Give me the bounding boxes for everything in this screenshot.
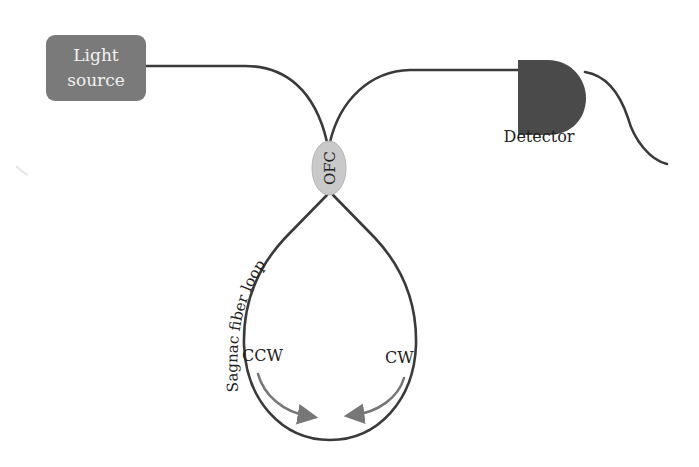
detector: Detector [504, 60, 586, 146]
sagnac-fiber-loop [244, 195, 416, 440]
cw-label: CW [385, 348, 414, 367]
output-fiber [330, 70, 520, 142]
light-source-label-line1: Light [73, 45, 119, 65]
ccw-label: CCW [242, 346, 283, 365]
light-source: Light source [46, 35, 146, 101]
optical-fiber-coupler: OFC [312, 141, 346, 195]
sagnac-diagram: Light source Detector OFC Sagnac fiber l… [0, 0, 699, 467]
detector-cable [585, 72, 667, 164]
detector-label: Detector [504, 127, 575, 146]
loop-label: Sagnac fiber loop [223, 256, 269, 392]
cw-arrow-icon [354, 378, 404, 415]
input-fiber [146, 66, 327, 142]
smudge-mark [16, 166, 28, 175]
light-source-label-line2: source [67, 70, 125, 90]
coupler-label: OFC [321, 151, 339, 185]
